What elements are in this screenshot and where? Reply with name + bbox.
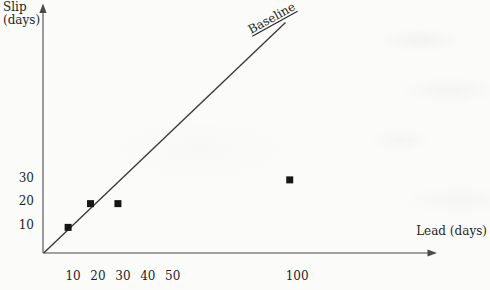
x-tick-label: 50 <box>165 269 180 283</box>
data-point <box>87 200 94 207</box>
x-tick-label: 20 <box>90 269 105 283</box>
y-tick-label: 10 <box>19 218 34 232</box>
x-tick-label: 100 <box>286 269 309 283</box>
y-axis-arrowhead-icon <box>39 4 46 14</box>
data-point <box>286 176 293 183</box>
y-tick-label: 30 <box>19 171 34 185</box>
y-tick-label: 20 <box>19 194 34 208</box>
y-axis-title-line2: (days) <box>3 14 40 27</box>
plot-canvas: 1020304050100102030 <box>0 0 490 290</box>
x-tick-label: 30 <box>115 269 130 283</box>
y-axis-title: Slip (days) <box>3 1 40 27</box>
baseline-line <box>44 22 286 253</box>
data-point <box>65 224 72 231</box>
data-point <box>114 200 121 207</box>
x-tick-label: 40 <box>140 269 155 283</box>
x-tick-label: 10 <box>65 269 80 283</box>
x-axis-title: Lead (days) <box>416 225 487 238</box>
scatter-chart: 1020304050100102030 Slip (days) Lead (da… <box>0 0 490 290</box>
x-axis-arrowhead-icon <box>428 249 438 256</box>
